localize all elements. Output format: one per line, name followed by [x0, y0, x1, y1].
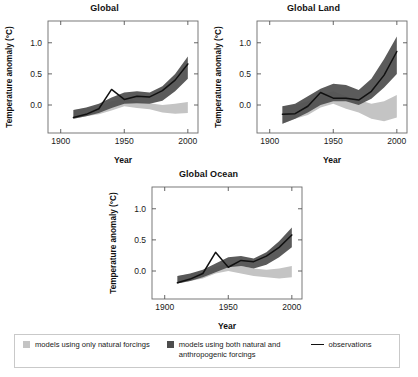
svg-text:1.0: 1.0 — [134, 204, 146, 214]
svg-text:1.0: 1.0 — [30, 38, 42, 48]
legend-label-anthropogenic-forcings: models using both natural and anthropoge… — [179, 340, 311, 360]
legend-item-observations: observations — [311, 340, 393, 350]
svg-text:2000: 2000 — [282, 302, 301, 312]
svg-text:Year: Year — [218, 321, 237, 331]
svg-text:Temperature anomaly (°C): Temperature anomaly (°C) — [214, 26, 223, 128]
svg-text:Temperature anomaly (°C): Temperature anomaly (°C) — [109, 192, 118, 294]
svg-text:0.5: 0.5 — [134, 235, 146, 245]
svg-text:0.5: 0.5 — [239, 69, 251, 79]
panel-global-ocean: Global Ocean 1900195020000.00.51.0YearTe… — [106, 168, 311, 330]
svg-text:1950: 1950 — [324, 136, 343, 146]
svg-text:1.0: 1.0 — [239, 38, 251, 48]
svg-text:1950: 1950 — [115, 136, 134, 146]
legend-item-anthropogenic-forcings: models using both natural and anthropoge… — [167, 340, 311, 360]
temperature-anomaly-figure: Global 1900195020000.00.51.0YearTemperat… — [0, 0, 418, 377]
svg-text:2000: 2000 — [387, 136, 406, 146]
panel-title-global-ocean: Global Ocean — [106, 168, 311, 181]
plot-global: 1900195020000.00.51.0YearTemperature ano… — [2, 15, 207, 167]
figure-legend: models using only natural forcings model… — [14, 334, 400, 368]
svg-text:2000: 2000 — [178, 136, 197, 146]
svg-text:0.0: 0.0 — [239, 100, 251, 110]
plot-global-land: 1900195020000.00.51.0YearTemperature ano… — [211, 15, 416, 167]
svg-text:0.5: 0.5 — [30, 69, 42, 79]
svg-text:1900: 1900 — [260, 136, 279, 146]
dark-gray-square-icon — [167, 341, 174, 348]
svg-text:0.0: 0.0 — [30, 100, 42, 110]
legend-item-natural-forcings: models using only natural forcings — [23, 340, 167, 350]
svg-text:Temperature anomaly (°C): Temperature anomaly (°C) — [5, 26, 14, 128]
panel-title-global-land: Global Land — [211, 2, 416, 15]
svg-text:1900: 1900 — [155, 302, 174, 312]
svg-text:1950: 1950 — [219, 302, 238, 312]
panel-global: Global 1900195020000.00.51.0YearTemperat… — [2, 2, 207, 168]
panel-global-land: Global Land 1900195020000.00.51.0YearTem… — [211, 2, 416, 168]
svg-text:Year: Year — [323, 155, 342, 165]
light-gray-square-icon — [23, 341, 30, 348]
svg-text:1900: 1900 — [51, 136, 70, 146]
legend-label-natural-forcings: models using only natural forcings — [35, 340, 150, 350]
svg-text:0.0: 0.0 — [134, 266, 146, 276]
panel-title-global: Global — [2, 2, 207, 15]
plot-global-ocean: 1900195020000.00.51.0YearTemperature ano… — [106, 181, 311, 333]
legend-label-observations: observations — [329, 340, 372, 350]
black-line-icon — [311, 341, 324, 348]
svg-text:Year: Year — [114, 155, 133, 165]
